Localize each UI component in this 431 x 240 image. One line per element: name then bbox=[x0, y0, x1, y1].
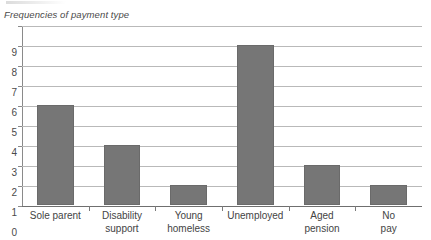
y-tick-label: 0 bbox=[3, 227, 17, 238]
y-tick-mark bbox=[18, 126, 22, 127]
gridline bbox=[22, 66, 422, 67]
plot-area bbox=[22, 26, 422, 206]
x-category-label: Nopay bbox=[355, 210, 422, 235]
y-tick-label: 2 bbox=[3, 187, 17, 198]
y-axis-line bbox=[22, 26, 23, 207]
y-tick-label: 5 bbox=[3, 127, 17, 138]
x-category-label-line: Unemployed bbox=[222, 210, 289, 223]
gridline bbox=[22, 186, 422, 187]
y-tick-label: 6 bbox=[3, 107, 17, 118]
y-tick-label: 8 bbox=[3, 67, 17, 78]
y-tick-mark bbox=[18, 46, 22, 47]
x-category-label-line: pay bbox=[355, 223, 422, 236]
y-tick-label: 1 bbox=[3, 207, 17, 218]
x-category-label-line: pension bbox=[289, 223, 356, 236]
x-category-label: Agedpension bbox=[289, 210, 356, 235]
x-category-label: Unemployed bbox=[222, 210, 289, 223]
y-tick-label: 4 bbox=[3, 147, 17, 158]
y-tick-mark bbox=[18, 186, 22, 187]
x-category-label-line: Young bbox=[155, 210, 222, 223]
y-tick-mark bbox=[18, 26, 22, 27]
y-tick-label: 7 bbox=[3, 87, 17, 98]
y-tick-label: 3 bbox=[3, 167, 17, 178]
x-category-label: Disabilitysupport bbox=[89, 210, 156, 235]
gridline bbox=[22, 126, 422, 127]
gridline bbox=[22, 166, 422, 167]
bar bbox=[370, 185, 407, 205]
bar bbox=[170, 185, 207, 205]
x-category-label: Sole parent bbox=[22, 210, 89, 223]
gridline bbox=[22, 106, 422, 107]
x-category-label-line: Sole parent bbox=[22, 210, 89, 223]
bar bbox=[37, 105, 74, 205]
y-tick-mark bbox=[18, 146, 22, 147]
x-axis-category-labels: Sole parentDisabilitysupportYounghomeles… bbox=[22, 210, 422, 240]
chart-title: Frequencies of payment type bbox=[4, 9, 129, 20]
bar bbox=[104, 145, 141, 205]
x-category-label-line: Disability bbox=[89, 210, 156, 223]
y-tick-label: 9 bbox=[3, 47, 17, 58]
gridline bbox=[22, 86, 422, 87]
x-category-label-line: Aged bbox=[289, 210, 356, 223]
y-tick-mark bbox=[18, 66, 22, 67]
gridline bbox=[22, 46, 422, 47]
x-category-label-line: No bbox=[355, 210, 422, 223]
y-axis-tick-labels: 0123456789 bbox=[0, 26, 17, 207]
x-category-label: Younghomeless bbox=[155, 210, 222, 235]
x-category-label-line: homeless bbox=[155, 223, 222, 236]
scan-artifact bbox=[6, 1, 66, 4]
gridline bbox=[22, 26, 422, 27]
y-tick-mark bbox=[18, 106, 22, 107]
y-tick-mark bbox=[18, 166, 22, 167]
x-category-label-line: support bbox=[89, 223, 156, 236]
bar bbox=[304, 165, 341, 205]
y-tick-mark bbox=[18, 86, 22, 87]
bar bbox=[237, 45, 274, 205]
gridline bbox=[22, 146, 422, 147]
y-tick-mark bbox=[18, 206, 22, 207]
bar-chart-figure: Frequencies of payment type 0123456789 S… bbox=[0, 0, 431, 240]
